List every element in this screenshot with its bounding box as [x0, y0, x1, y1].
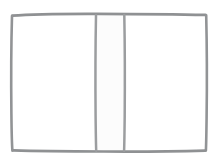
sketch-canvas: A simple grey hand-drawn outline of an o…	[0, 0, 222, 162]
book-outline-bottom	[13, 150, 205, 151]
book-spine-fill	[97, 16, 125, 150]
book-spine-right-line	[124, 15, 125, 151]
book-spine-left-line	[95, 15, 96, 151]
book-outline-right	[206, 15, 207, 150]
right-page	[125, 16, 205, 150]
open-book-sketch	[0, 0, 222, 162]
left-page	[14, 16, 96, 150]
book-outline-left	[11, 16, 12, 151]
